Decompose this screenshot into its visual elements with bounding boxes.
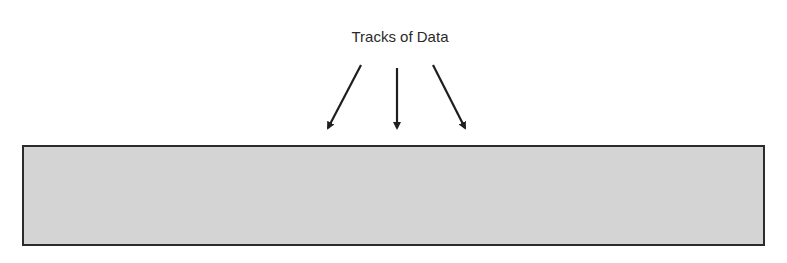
data-track-box — [22, 145, 765, 246]
arrow-right-icon — [433, 65, 465, 128]
arrow-left-icon — [328, 65, 361, 128]
